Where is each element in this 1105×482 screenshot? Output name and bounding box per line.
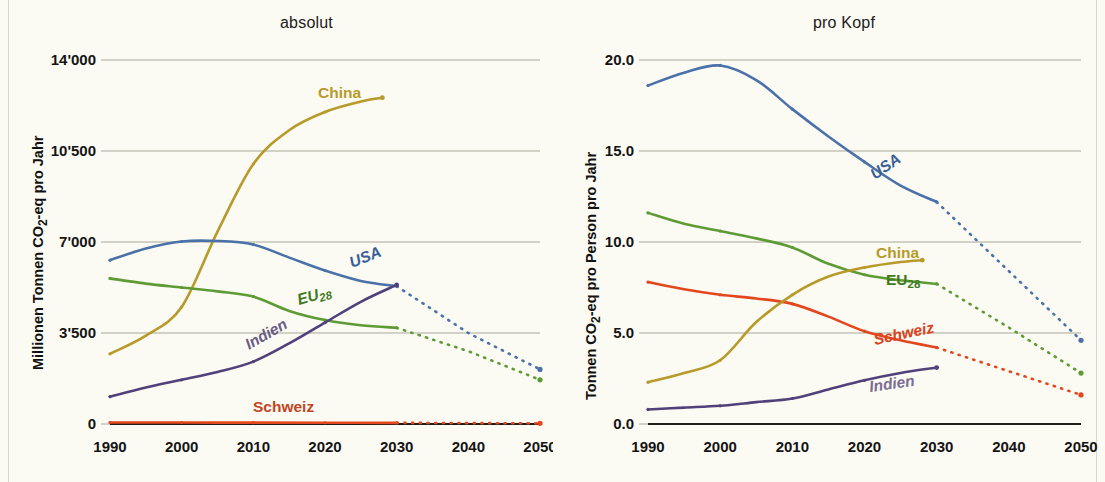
data-point [108,259,111,262]
x-tick-label: 2050 [1064,438,1097,455]
y-tick-label: 10.0 [605,233,634,250]
series-label-china: China [876,244,919,261]
data-point [252,295,255,298]
x-tick-label: 1990 [93,438,126,455]
data-point [646,381,649,384]
series-label-schweiz: Schweiz [872,319,936,348]
series-projection-usa [397,286,540,369]
plot-area-pro-kopf: 0.05.010.015.020.01990200020102020203020… [553,0,1105,482]
x-tick-label: 2020 [308,438,341,455]
x-tick-label: 2010 [776,438,809,455]
chart-page: absolut Millionen Tonnen CO2-eq pro Jahr… [0,0,1105,482]
panel-pro-kopf: pro Kopf Tonnen CO2-eq pro Person pro Ja… [553,0,1105,482]
data-point [719,64,722,67]
data-point [646,280,649,283]
series-label-usa: USA [347,243,384,271]
x-tick-label: 2000 [165,438,198,455]
projection-endpoint [1078,392,1083,397]
projection-endpoint [537,421,542,426]
series-line-eu28 [110,278,397,327]
y-tick-label: 10'500 [51,142,96,159]
series-projection-schweiz [937,348,1081,395]
data-point [719,293,722,296]
data-point [180,378,183,381]
data-point [863,379,866,382]
x-tick-label: 2030 [380,438,413,455]
series-label-schweiz: Schweiz [253,398,314,415]
series-label-eu28: EU28 [295,282,334,310]
x-tick-label: 2040 [452,438,485,455]
series-projection-eu28 [937,284,1081,373]
data-point [646,211,649,214]
y-tick-label: 3'500 [59,324,96,341]
data-point [252,360,255,363]
data-point [719,229,722,232]
x-tick-label: 2030 [920,438,953,455]
x-tick-label: 2050 [523,438,553,455]
data-point [646,408,649,411]
data-point [323,421,326,424]
series-label-indien: Indien [868,372,916,395]
data-point [791,246,794,249]
data-point [791,302,794,305]
projection-endpoint [1078,338,1083,343]
data-point [863,273,866,276]
data-point [863,266,866,269]
data-point [863,330,866,333]
x-tick-label: 2020 [848,438,881,455]
series-endpoint [934,365,939,370]
series-projection-usa [937,202,1081,340]
data-point [323,321,326,324]
data-point [791,293,794,296]
projection-endpoint [537,367,542,372]
projection-endpoint [537,377,542,382]
y-tick-label: 0.0 [613,415,634,432]
data-point [180,286,183,289]
data-point [252,243,255,246]
series-endpoint [920,258,925,263]
y-tick-label: 14'000 [51,51,96,68]
y-tick-label: 20.0 [605,51,634,68]
series-projection-eu28 [397,328,540,380]
plot-area-absolut: 03'5007'00010'50014'00019902000201020202… [0,0,553,482]
x-tick-label: 2000 [703,438,736,455]
data-point [323,110,326,113]
data-point [791,397,794,400]
data-point [108,352,111,355]
data-point [252,162,255,165]
data-point [108,395,111,398]
data-point [791,108,794,111]
projection-endpoint [1078,370,1083,375]
series-line-china [110,98,382,354]
series-line-usa [648,65,937,202]
series-label-eu28: EU28 [886,271,921,290]
y-tick-label: 5.0 [613,324,634,341]
x-tick-label: 2040 [992,438,1025,455]
y-tick-label: 0 [88,415,96,432]
data-point [108,421,111,424]
series-endpoint [380,95,385,100]
panel-absolut: absolut Millionen Tonnen CO2-eq pro Jahr… [0,0,553,482]
data-point [180,421,183,424]
data-point [323,269,326,272]
series-endpoint [394,283,399,288]
data-point [719,359,722,362]
data-point [180,240,183,243]
data-point [180,305,183,308]
y-tick-label: 7'000 [59,233,96,250]
data-point [863,160,866,163]
series-label-china: China [318,84,361,101]
data-point [719,404,722,407]
x-tick-label: 1990 [631,438,664,455]
data-point [252,421,255,424]
y-tick-label: 15.0 [605,142,634,159]
data-point [646,84,649,87]
x-tick-label: 2010 [237,438,270,455]
data-point [108,277,111,280]
